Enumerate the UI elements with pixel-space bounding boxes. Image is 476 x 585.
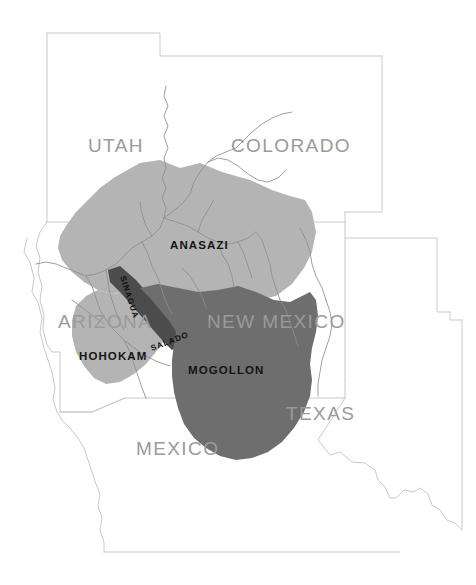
border-nevada [36,222,60,412]
border-oklahoma-panhandle [345,238,450,312]
culture-label-hohokam: HOHOKAM [79,350,147,362]
culture-label-mogollon: MOGOLLON [188,364,265,376]
border-california-coast [24,238,57,412]
culture-label-anasazi: ANASAZI [170,239,229,251]
border-arizona-south [60,398,177,412]
border-colorado-east [345,56,382,212]
state-label-new-mexico: NEW MEXICO [207,311,346,332]
border-utah [47,33,382,56]
border-baja-gulf [57,412,104,552]
state-label-utah: UTAH [88,135,144,156]
state-label-texas: TEXAS [286,403,355,424]
culture-map: UTAH COLORADO ARIZONA NEW MEXICO TEXAS M… [0,0,476,585]
map-canvas: UTAH COLORADO ARIZONA NEW MEXICO TEXAS M… [0,0,476,585]
state-label-colorado: COLORADO [231,135,351,156]
culture-regions [58,160,318,460]
state-label-mexico: MEXICO [136,438,219,459]
border-california-inland [60,398,125,412]
region-anasazi-shape [58,160,316,304]
border-texas-north [450,312,462,320]
